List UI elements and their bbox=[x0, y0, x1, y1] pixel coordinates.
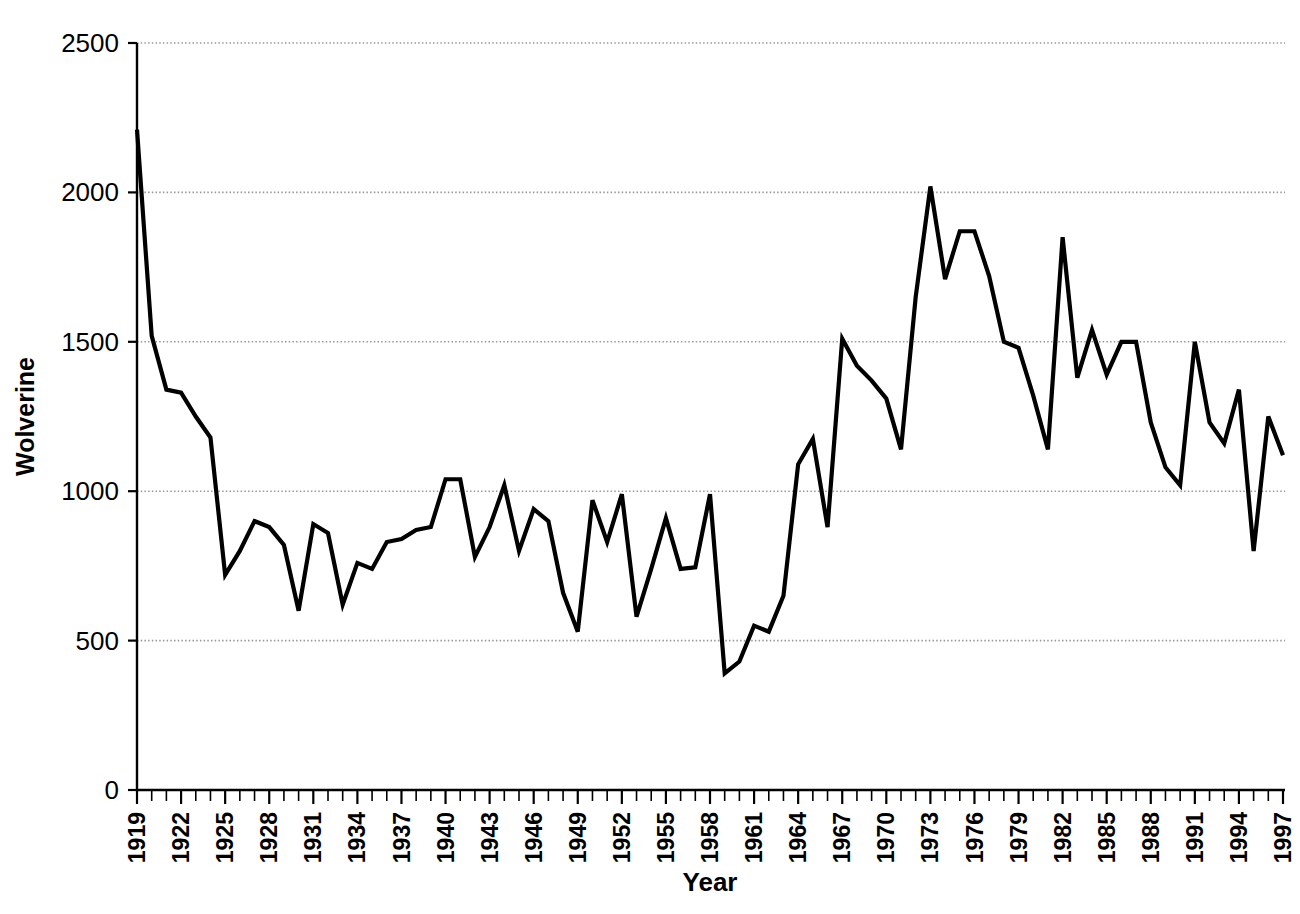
x-tick-label: 1952 bbox=[609, 812, 635, 863]
x-tick-label: 1973 bbox=[917, 812, 943, 863]
x-tick-label: 1994 bbox=[1226, 812, 1252, 863]
x-axis-tick-labels: 1919192219251928193119341937194019431946… bbox=[124, 812, 1296, 863]
x-tick-label: 1937 bbox=[389, 812, 415, 863]
x-tick-label: 1988 bbox=[1138, 812, 1164, 863]
x-axis-title: Year bbox=[683, 867, 738, 897]
x-tick-label: 1976 bbox=[962, 812, 988, 863]
x-tick-label: 1934 bbox=[344, 812, 370, 863]
y-tick-label: 2500 bbox=[61, 28, 119, 58]
y-tick-label: 500 bbox=[76, 626, 119, 656]
x-tick-label: 1967 bbox=[829, 812, 855, 863]
x-tick-label: 1979 bbox=[1006, 812, 1032, 863]
x-tick-label: 1925 bbox=[212, 812, 238, 863]
x-tick-label: 1922 bbox=[168, 812, 194, 863]
x-tick-label: 1985 bbox=[1094, 812, 1120, 863]
y-tick-label: 1000 bbox=[61, 476, 119, 506]
x-tick-label: 1928 bbox=[256, 812, 282, 863]
chart-container: 05001000150020002500 1919192219251928193… bbox=[0, 0, 1300, 914]
x-tick-label: 1970 bbox=[873, 812, 899, 863]
x-tick-label: 1964 bbox=[785, 812, 811, 863]
x-tick-label: 1997 bbox=[1270, 812, 1296, 863]
y-tick-label: 2000 bbox=[61, 177, 119, 207]
x-tick-label: 1943 bbox=[477, 812, 503, 863]
data-series-wolverine bbox=[137, 130, 1283, 674]
x-tick-label: 1955 bbox=[653, 812, 679, 863]
line-chart: 05001000150020002500 1919192219251928193… bbox=[0, 0, 1300, 914]
y-tick-label: 1500 bbox=[61, 327, 119, 357]
x-tick-label: 1940 bbox=[433, 812, 459, 863]
x-tick-label: 1961 bbox=[741, 812, 767, 863]
x-tick-label: 1931 bbox=[300, 812, 326, 863]
axes bbox=[137, 43, 1285, 790]
y-tick-label: 0 bbox=[105, 775, 119, 805]
x-tick-label: 1919 bbox=[124, 812, 150, 863]
x-tick-label: 1958 bbox=[697, 812, 723, 863]
y-axis-tick-labels: 05001000150020002500 bbox=[61, 28, 119, 805]
y-axis-ticks bbox=[128, 43, 137, 790]
y-axis-title: Wolverine bbox=[11, 357, 39, 476]
x-tick-label: 1949 bbox=[565, 812, 591, 863]
x-tick-label: 1982 bbox=[1050, 812, 1076, 863]
x-tick-label: 1991 bbox=[1182, 812, 1208, 863]
x-tick-label: 1946 bbox=[521, 812, 547, 863]
x-axis-ticks bbox=[137, 790, 1283, 804]
